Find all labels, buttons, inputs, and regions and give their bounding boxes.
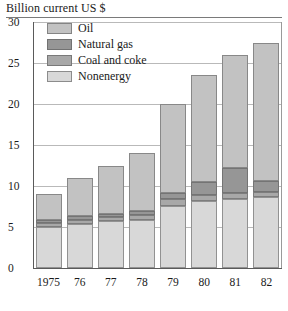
bar-segment-oil <box>36 194 62 219</box>
bar-segment-coal-and-coke <box>36 223 62 227</box>
bar-segment-coal-and-coke <box>222 193 248 199</box>
bar-segment-oil <box>129 153 155 210</box>
bar-segment-coal-and-coke <box>129 215 155 220</box>
legend-swatch <box>47 71 72 82</box>
legend-item: Oil <box>47 20 147 36</box>
y-axis-tick-label: 15 <box>8 139 20 151</box>
bar-segment-coal-and-coke <box>253 192 279 198</box>
legend-label: Nonenergy <box>78 70 131 82</box>
bar-segment-oil <box>67 178 93 217</box>
bar-segment-oil <box>222 55 248 168</box>
x-axis-tick-label: 82 <box>261 276 273 288</box>
bar-stack <box>191 22 217 268</box>
bar-segment-nonenergy <box>98 221 124 268</box>
bar-segment-nonenergy <box>36 227 62 268</box>
x-axis-tick-label: 80 <box>198 276 210 288</box>
y-axis-line <box>33 22 34 269</box>
bar-segment-nonenergy <box>191 201 217 268</box>
x-axis-tick-label: 77 <box>105 276 117 288</box>
bar-segment-coal-and-coke <box>67 220 93 224</box>
bar-segment-nonenergy <box>253 197 279 268</box>
legend-item: Natural gas <box>47 36 147 52</box>
bar-segment-natural-gas <box>160 193 186 200</box>
y-axis-tick-label: 25 <box>8 57 20 69</box>
legend-swatch <box>47 55 72 66</box>
bar-segment-oil <box>160 104 186 193</box>
bar-segment-oil <box>98 166 124 214</box>
bar-segment-natural-gas <box>36 220 62 223</box>
legend-label: Natural gas <box>78 38 133 50</box>
bar-segment-coal-and-coke <box>191 195 217 201</box>
y-axis-tick-label: 0 <box>8 262 14 274</box>
x-axis-tick-label: 76 <box>74 276 86 288</box>
y-axis-tick-label: 20 <box>8 98 20 110</box>
legend: OilNatural gasCoal and cokeNonenergy <box>47 20 147 84</box>
bar-segment-nonenergy <box>67 224 93 268</box>
plot-right-border <box>281 22 282 268</box>
bar-segment-coal-and-coke <box>98 217 124 221</box>
bar-segment-natural-gas <box>67 216 93 219</box>
bar-segment-oil <box>191 75 217 182</box>
legend-item: Nonenergy <box>47 68 147 84</box>
bar-segment-natural-gas <box>253 181 279 192</box>
bar-segment-oil <box>253 43 279 182</box>
x-axis-tick-label: 78 <box>136 276 148 288</box>
y-axis-tick-label: 10 <box>8 180 20 192</box>
bar-segment-natural-gas <box>222 168 248 193</box>
legend-label: Coal and coke <box>78 54 147 66</box>
legend-swatch <box>47 39 72 50</box>
stacked-bar-chart: Billion current US $ 051015202530 197576… <box>0 0 288 311</box>
bar-segment-natural-gas <box>191 182 217 195</box>
bar-segment-coal-and-coke <box>160 199 186 206</box>
bar-segment-nonenergy <box>222 199 248 268</box>
bar-segment-nonenergy <box>160 206 186 268</box>
bar-stack <box>253 22 279 268</box>
bar-segment-natural-gas <box>129 211 155 215</box>
chart-title: Billion current US $ <box>6 1 106 16</box>
legend-item: Coal and coke <box>47 52 147 68</box>
title-divider <box>6 17 282 18</box>
legend-label: Oil <box>78 22 93 34</box>
legend-swatch <box>47 23 72 34</box>
bar-stack <box>160 22 186 268</box>
x-axis-line <box>33 268 282 269</box>
bar-segment-natural-gas <box>98 214 124 217</box>
y-axis-tick-label: 30 <box>8 16 20 28</box>
x-axis-tick-label: 81 <box>230 276 242 288</box>
x-axis-tick-label: 79 <box>167 276 179 288</box>
x-axis-tick-label: 1975 <box>37 276 60 288</box>
bar-segment-nonenergy <box>129 220 155 268</box>
y-axis-tick-label: 5 <box>8 221 14 233</box>
bar-stack <box>222 22 248 268</box>
